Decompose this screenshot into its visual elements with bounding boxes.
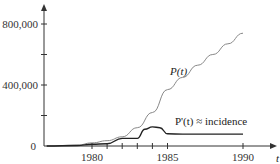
x-axis-label: t <box>276 152 280 164</box>
x-tick-label: 1985 <box>157 151 180 163</box>
labels: tP(t)P'(t) ≈ incidence <box>169 65 280 164</box>
y-tick-label: 800,000 <box>2 18 38 30</box>
y-axis-arrow-icon <box>41 4 47 11</box>
x-tick-label: 1990 <box>232 151 255 163</box>
x-axis-arrow-icon <box>270 143 277 149</box>
chart: 0400,000800,000198019851990 tP(t)P'(t) ≈… <box>0 0 280 164</box>
y-tick-label: 400,000 <box>2 79 38 91</box>
y-tick-label: 0 <box>31 140 37 152</box>
x-tick-label: 1980 <box>81 151 104 163</box>
incidence-curve <box>47 127 243 146</box>
p-curve-label: P(t) <box>169 65 187 78</box>
series <box>47 33 243 146</box>
ticks: 0400,000800,000198019851990 <box>2 18 254 163</box>
incidence-curve-label: P'(t) ≈ incidence <box>175 115 247 128</box>
